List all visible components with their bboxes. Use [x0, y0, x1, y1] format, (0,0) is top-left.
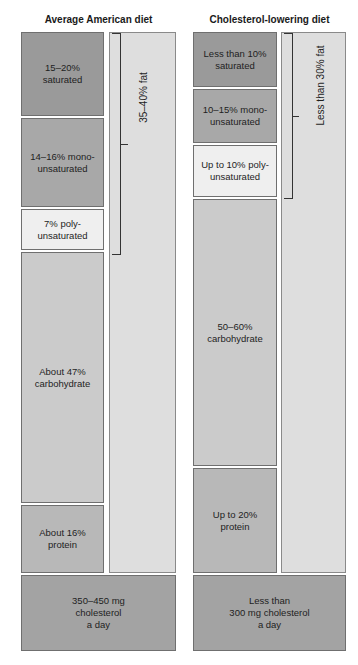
low-carbohydrate-box: 50–60% carbohydrate	[193, 199, 277, 466]
low-poly-box: Up to 10% poly- unsaturated	[193, 145, 277, 197]
avg-mono-label: 14–16% mono- unsaturated	[30, 151, 94, 175]
avg-protein-label: About 16% protein	[39, 527, 85, 551]
avg-fat-bracket	[112, 33, 121, 255]
low-mono-box: 10–15% mono- unsaturated	[193, 89, 277, 143]
avg-poly-label: 7% poly- unsaturated	[37, 218, 87, 242]
low-fat-bracket-tick	[293, 116, 299, 117]
avg-fat-label: 35–40% fat	[138, 68, 149, 128]
average-diet-title: Average American diet	[21, 14, 176, 25]
avg-fat-bracket-tick	[121, 144, 128, 145]
avg-cholesterol-box: 350–450 mg cholesterol a day	[21, 575, 176, 651]
avg-saturated-label: 15–20% saturated	[43, 62, 83, 86]
low-fat-label: Less than 30% fat	[315, 38, 326, 134]
cholesterol-lowering-diet-title: Cholesterol-lowering diet	[193, 14, 346, 25]
avg-cholesterol-label: 350–450 mg cholesterol a day	[72, 595, 125, 631]
avg-carbohydrate-box: About 47% carbohydrate	[21, 252, 104, 503]
avg-poly-box: 7% poly- unsaturated	[21, 209, 104, 250]
low-fat-bracket	[284, 33, 293, 199]
avg-mono-box: 14–16% mono- unsaturated	[21, 118, 104, 207]
avg-carbohydrate-label: About 47% carbohydrate	[35, 366, 90, 390]
low-carbohydrate-label: 50–60% carbohydrate	[207, 321, 262, 345]
low-saturated-box: Less than 10% saturated	[193, 32, 277, 87]
low-saturated-label: Less than 10% saturated	[204, 48, 267, 72]
low-protein-box: Up to 20% protein	[193, 468, 277, 573]
low-protein-label: Up to 20% protein	[213, 509, 257, 533]
avg-saturated-box: 15–20% saturated	[21, 32, 104, 116]
avg-protein-box: About 16% protein	[21, 505, 104, 573]
low-mono-label: 10–15% mono- unsaturated	[203, 104, 267, 128]
low-poly-label: Up to 10% poly- unsaturated	[201, 159, 269, 183]
low-cholesterol-label: Less than 300 mg cholesterol a day	[229, 595, 309, 631]
low-cholesterol-box: Less than 300 mg cholesterol a day	[193, 575, 346, 651]
